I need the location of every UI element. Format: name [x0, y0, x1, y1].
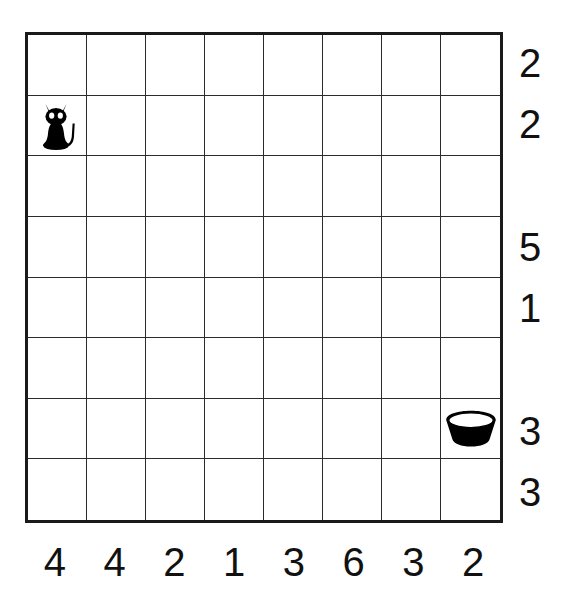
grid-cell-r2c8[interactable] — [441, 96, 500, 157]
grid-cell-r2c5[interactable] — [264, 96, 323, 157]
grid-cell-r4c6[interactable] — [323, 217, 382, 278]
grid-cell-r3c6[interactable] — [323, 156, 382, 217]
grid-cell-r8c7[interactable] — [382, 459, 441, 520]
grid-cell-r2c6[interactable] — [323, 96, 382, 157]
grid-cell-r2c4[interactable] — [205, 96, 264, 157]
grid-cell-r3c4[interactable] — [205, 156, 264, 217]
grid-cell-r4c1[interactable] — [28, 217, 87, 278]
grid-cell-r4c4[interactable] — [205, 217, 264, 278]
grid-cell-r3c2[interactable] — [87, 156, 146, 217]
grid-cell-r7c7[interactable] — [382, 399, 441, 460]
grid-cell-r6c1[interactable] — [28, 338, 87, 399]
grid-cell-r3c8[interactable] — [441, 156, 500, 217]
grid-cell-r8c5[interactable] — [264, 459, 323, 520]
grid-cell-r1c8[interactable] — [441, 35, 500, 96]
row-clue-1: 2 — [503, 32, 571, 93]
grid-cell-r6c7[interactable] — [382, 338, 441, 399]
grid-cell-r7c5[interactable] — [264, 399, 323, 460]
grid-cell-r7c6[interactable] — [323, 399, 382, 460]
grid-cell-r1c2[interactable] — [87, 35, 146, 96]
grid-cell-r1c4[interactable] — [205, 35, 264, 96]
grid-cell-r2c7[interactable] — [382, 96, 441, 157]
row-clue-5: 1 — [503, 278, 571, 339]
grid-cell-r1c3[interactable] — [146, 35, 205, 96]
grid-cell-r5c7[interactable] — [382, 278, 441, 339]
grid-cell-r1c6[interactable] — [323, 35, 382, 96]
grid-cell-r8c1[interactable] — [28, 459, 87, 520]
puzzle-grid[interactable] — [25, 32, 503, 523]
grid-cell-r7c1[interactable] — [28, 399, 87, 460]
grid-cell-r7c8[interactable] — [441, 399, 500, 460]
column-clue-row: 4 4 2 1 3 6 3 2 — [25, 523, 503, 585]
cat-icon — [28, 96, 86, 156]
grid-cell-r6c3[interactable] — [146, 338, 205, 399]
row-clue-8: 3 — [503, 462, 571, 523]
row-clue-7: 3 — [503, 400, 571, 461]
grid-puzzle: 2 2 5 1 3 3 4 4 2 1 3 6 3 2 — [0, 0, 571, 602]
grid-cell-r7c4[interactable] — [205, 399, 264, 460]
grid-cell-r5c4[interactable] — [205, 278, 264, 339]
grid-cell-r2c1[interactable] — [28, 96, 87, 157]
grid-cell-r8c8[interactable] — [441, 459, 500, 520]
grid-cell-container — [28, 35, 500, 520]
grid-cell-r3c7[interactable] — [382, 156, 441, 217]
column-clue-5: 3 — [264, 523, 324, 585]
column-clue-6: 6 — [324, 523, 384, 585]
grid-cell-r5c5[interactable] — [264, 278, 323, 339]
bowl-icon — [441, 399, 500, 459]
grid-cell-r6c5[interactable] — [264, 338, 323, 399]
grid-cell-r4c3[interactable] — [146, 217, 205, 278]
grid-cell-r5c2[interactable] — [87, 278, 146, 339]
grid-cell-r1c7[interactable] — [382, 35, 441, 96]
column-clue-7: 3 — [384, 523, 444, 585]
row-clue-4: 5 — [503, 216, 571, 277]
grid-cell-r5c3[interactable] — [146, 278, 205, 339]
column-clue-3: 2 — [145, 523, 205, 585]
grid-cell-r6c8[interactable] — [441, 338, 500, 399]
grid-cell-r4c2[interactable] — [87, 217, 146, 278]
grid-cell-r3c1[interactable] — [28, 156, 87, 217]
grid-cell-r6c2[interactable] — [87, 338, 146, 399]
grid-cell-r4c7[interactable] — [382, 217, 441, 278]
grid-cell-r6c6[interactable] — [323, 338, 382, 399]
grid-cell-r3c3[interactable] — [146, 156, 205, 217]
column-clue-2: 4 — [85, 523, 145, 585]
row-clue-column: 2 2 5 1 3 3 — [503, 32, 571, 523]
grid-cell-r2c3[interactable] — [146, 96, 205, 157]
column-clue-8: 2 — [443, 523, 503, 585]
grid-cell-r7c2[interactable] — [87, 399, 146, 460]
grid-cell-r8c4[interactable] — [205, 459, 264, 520]
column-clue-1: 4 — [25, 523, 85, 585]
grid-cell-r6c4[interactable] — [205, 338, 264, 399]
grid-cell-r5c1[interactable] — [28, 278, 87, 339]
grid-cell-r1c1[interactable] — [28, 35, 87, 96]
grid-cell-r5c6[interactable] — [323, 278, 382, 339]
grid-cell-r2c2[interactable] — [87, 96, 146, 157]
grid-cell-r8c2[interactable] — [87, 459, 146, 520]
grid-cell-r4c5[interactable] — [264, 217, 323, 278]
grid-cell-r4c8[interactable] — [441, 217, 500, 278]
column-clue-4: 1 — [204, 523, 264, 585]
grid-cell-r1c5[interactable] — [264, 35, 323, 96]
row-clue-6 — [503, 339, 571, 400]
row-clue-3 — [503, 155, 571, 216]
grid-cell-r8c6[interactable] — [323, 459, 382, 520]
row-clue-2: 2 — [503, 93, 571, 154]
grid-cell-r7c3[interactable] — [146, 399, 205, 460]
grid-cell-r3c5[interactable] — [264, 156, 323, 217]
grid-cell-r8c3[interactable] — [146, 459, 205, 520]
grid-cell-r5c8[interactable] — [441, 278, 500, 339]
